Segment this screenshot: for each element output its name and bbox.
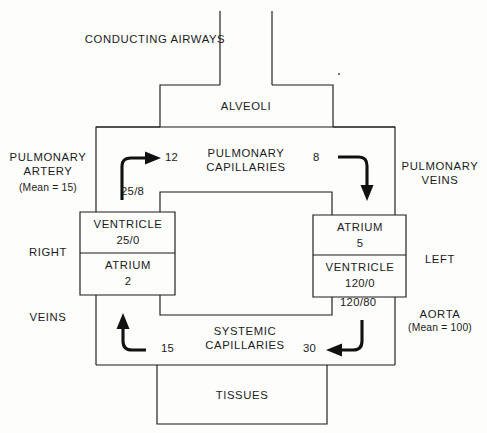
systemic-capillary-inflow-pressure: 30 [303,342,316,356]
systemic-vein-flow-arrow [123,328,146,350]
left-atrium-pressure: 5 [357,237,364,251]
pulmonary-capillaries-outer-right [333,127,395,215]
pulmonary-vein-flow-arrowhead [361,185,374,201]
pulmonary-capillaries-outer-left [96,127,160,212]
aorta-label: AORTA [420,308,461,322]
left-ventricle-pressure: 120/0 [345,277,375,291]
systemic-vein-flow-arrowhead [117,313,130,329]
right-ventricle-name: VENTRICLE [94,218,163,232]
conducting-airways-label: CONDUCTING AIRWAYS [85,33,226,47]
pulmonary-veins-label: PULMONARY VEINS [402,160,479,188]
pulmonary-artery-label: PULMONARY ARTERY [10,151,87,179]
right-ventricle-pressure: 25/0 [116,234,139,248]
circulatory-pressure-diagram: CONDUCTING AIRWAYS ALVEOLI PULMONARY CAP… [0,0,487,433]
pulmonary-capillary-outflow-pressure: 8 [313,151,320,165]
pulmonary-capillaries-label: PULMONARY CAPILLARIES [206,147,285,175]
alveoli-label: ALVEOLI [221,100,271,114]
right-atrium-name: ATRIUM [105,259,151,273]
aorta-mean-label: (Mean = 100) [408,322,472,335]
pulmonary-artery-flow-arrowhead [145,152,161,165]
systemic-capillary-outflow-pressure: 15 [161,342,174,356]
aortic-pressure-label: 120/80 [340,296,376,310]
systemic-capillaries-label: SYSTEMIC CAPILLARIES [205,325,284,353]
left-atrium-name: ATRIUM [337,221,383,235]
aortic-flow-arrowhead [326,344,342,357]
aortic-flow-arrow [341,320,362,350]
right-side-label: RIGHT [29,246,67,260]
left-ventricle-name: VENTRICLE [326,261,395,275]
diagram-linework [0,0,487,433]
systemic-veins-label: VEINS [30,311,67,325]
scan-speck [338,73,340,75]
tissues-label: TISSUES [216,389,269,403]
pulmonary-artery-pressure-label: 25/8 [121,185,144,199]
pulmonary-vein-flow-arrow [338,157,367,186]
right-atrium-pressure: 2 [125,275,132,289]
pulmonary-capillaries-inner-edge [160,192,332,215]
systemic-capillaries-inner-edge [160,295,332,315]
pulmonary-artery-mean-label: (Mean = 15) [19,182,77,195]
left-side-label: LEFT [425,253,455,267]
pulmonary-capillary-inflow-pressure: 12 [165,151,178,165]
